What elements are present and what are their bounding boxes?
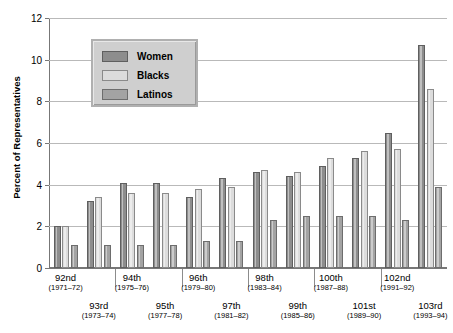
bar-highlight [296, 173, 298, 267]
bar-latinos [435, 187, 442, 268]
bar-blacks [427, 89, 434, 268]
bar-highlight [122, 184, 124, 267]
legend-label: Latinos [137, 89, 173, 100]
legend-swatch-blacks [102, 70, 128, 81]
bar-women [319, 166, 326, 268]
bar-blacks [95, 197, 102, 268]
y-tick-label: 8 [36, 96, 42, 107]
bar-highlight [188, 198, 190, 267]
x-tick-congress: 101st [347, 300, 381, 311]
bar-highlight [164, 194, 166, 267]
bar-highlight [272, 221, 274, 267]
x-tick-years: (1981–82) [214, 311, 248, 321]
legend-item-women: Women [98, 47, 191, 66]
x-tick-congress: 94th [115, 272, 149, 283]
y-tick-label: 12 [31, 13, 42, 24]
y-tick-label: 2 [36, 221, 42, 232]
bar-women [219, 178, 226, 268]
x-tick-congress: 95th [148, 300, 182, 311]
bar-group [414, 18, 447, 268]
bar-latinos [236, 241, 243, 268]
bar-blacks [128, 193, 135, 268]
bar-women [286, 176, 293, 268]
legend-swatch-latinos [102, 89, 128, 100]
bar-latinos [203, 241, 210, 268]
bar-group [381, 18, 414, 268]
x-tick-years: (1989–90) [347, 311, 381, 321]
bar-blacks [327, 158, 334, 268]
bar-latinos [104, 245, 111, 268]
x-tick-congress: 100th [314, 272, 348, 283]
x-tick-years: (1991–92) [380, 283, 414, 293]
x-tick-congress: 102nd [380, 272, 414, 283]
bar-latinos [71, 245, 78, 268]
x-tick-congress: 99th [281, 300, 315, 311]
bar-latinos [336, 216, 343, 268]
x-tick-congress: 97th [214, 300, 248, 311]
x-tick-label: 92nd(1971–72) [48, 272, 82, 293]
bar-blacks [62, 226, 69, 268]
bar-highlight [106, 246, 108, 267]
bar-women [253, 172, 260, 268]
bar-highlight [64, 227, 66, 267]
bar-highlight [329, 159, 331, 267]
x-tick-label: 99th(1985–86) [281, 300, 315, 321]
bar-blacks [195, 189, 202, 268]
bar-women [120, 183, 127, 268]
bar-highlight [89, 202, 91, 267]
bar-highlight [130, 194, 132, 267]
legend-label: Blacks [137, 70, 169, 81]
bar-latinos [170, 245, 177, 268]
x-tick-label: 94th(1975–76) [115, 272, 149, 293]
bar-highlight [429, 90, 431, 267]
bar-latinos [303, 216, 310, 268]
bar-group [348, 18, 381, 268]
bar-group [281, 18, 314, 268]
legend: WomenBlacksLatinos [91, 39, 198, 107]
x-tick-years: (1971–72) [48, 283, 82, 293]
x-tick-years: (1983–84) [247, 283, 281, 293]
bar-blacks [162, 193, 169, 268]
legend-swatch-women [102, 51, 128, 62]
x-tick-label: 93rd(1973–74) [82, 300, 116, 321]
y-axis-title: Percent of Representatives [11, 58, 22, 218]
legend-item-blacks: Blacks [98, 66, 191, 85]
bar-group [215, 18, 248, 268]
bar-women [352, 158, 359, 268]
x-tick-label: 96th(1979–80) [181, 272, 215, 293]
bar-latinos [402, 220, 409, 268]
bar-highlight [139, 246, 141, 267]
bar-highlight [321, 167, 323, 267]
bar-highlight [420, 46, 422, 267]
bar-highlight [56, 227, 58, 267]
bar-highlight [263, 171, 265, 267]
x-tick-years: (1975–76) [115, 283, 149, 293]
bar-women [87, 201, 94, 268]
y-tick-label: 4 [36, 179, 42, 190]
bar-highlight [354, 159, 356, 267]
y-tick-label: 6 [36, 138, 42, 149]
bar-group [248, 18, 281, 268]
bar-highlight [230, 188, 232, 267]
bar-highlight [73, 246, 75, 267]
x-tick-label: 95th(1977–78) [148, 300, 182, 321]
bar-highlight [338, 217, 340, 267]
x-tick-label: 100th(1987–88) [314, 272, 348, 293]
bar-highlight [371, 217, 373, 267]
bar-latinos [270, 220, 277, 268]
bar-highlight [97, 198, 99, 267]
bar-highlight [305, 217, 307, 267]
x-tick-years: (1987–88) [314, 283, 348, 293]
bar-highlight [172, 246, 174, 267]
bar-highlight [255, 173, 257, 267]
bar-latinos [369, 216, 376, 268]
bar-highlight [288, 177, 290, 267]
bar-highlight [404, 221, 406, 267]
bar-latinos [137, 245, 144, 268]
bar-women [153, 183, 160, 268]
x-tick-years: (1973–74) [82, 311, 116, 321]
x-tick-congress: 96th [181, 272, 215, 283]
x-tick-congress: 103rd [413, 300, 447, 311]
x-tick-congress: 93rd [82, 300, 116, 311]
bar-women [186, 197, 193, 268]
